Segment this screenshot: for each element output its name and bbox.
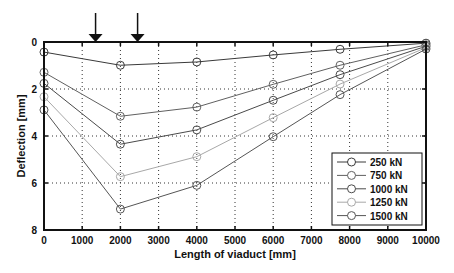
y-tick-label: 8 — [31, 225, 37, 236]
y-tick-label: 6 — [31, 178, 37, 189]
series-line — [44, 45, 426, 116]
x-tick-label: 9000 — [377, 235, 400, 246]
x-axis-label: Length of viaduct [mm] — [174, 248, 296, 260]
legend-entry-label: 1500 kN — [370, 211, 408, 222]
legend: 250 kN750 kN1000 kN1250 kN1500 kN — [332, 153, 422, 225]
legend-marker-icon — [348, 158, 356, 166]
load-arrows — [89, 13, 145, 42]
x-tick-label: 5000 — [224, 235, 247, 246]
y-tick-label: 4 — [31, 131, 37, 142]
legend-entry-label: 1000 kN — [370, 184, 408, 195]
y-tick-label: 2 — [31, 84, 37, 95]
legend-marker-icon — [348, 171, 356, 179]
x-tick-label: 8000 — [338, 235, 361, 246]
x-tick-label: 3000 — [147, 235, 170, 246]
y-axis-label: Deflection [mm] — [15, 94, 27, 177]
x-tick-label: 0 — [41, 235, 47, 246]
x-tick-label: 1000 — [71, 235, 94, 246]
x-tick-label: 10000 — [412, 235, 440, 246]
legend-entry-label: 1250 kN — [370, 197, 408, 208]
x-tick-label: 6000 — [262, 235, 285, 246]
x-tick-label: 7000 — [300, 235, 323, 246]
deflection-chart: 0100020003000400050006000700080009000100… — [0, 0, 454, 273]
legend-marker-icon — [348, 212, 356, 220]
legend-entry-label: 250 kN — [370, 157, 402, 168]
legend-marker-icon — [348, 198, 356, 206]
y-tick-label: 0 — [31, 37, 37, 48]
x-tick-label: 4000 — [186, 235, 209, 246]
x-tick-label: 2000 — [109, 235, 132, 246]
legend-entry-label: 750 kN — [370, 170, 402, 181]
legend-marker-icon — [348, 185, 356, 193]
